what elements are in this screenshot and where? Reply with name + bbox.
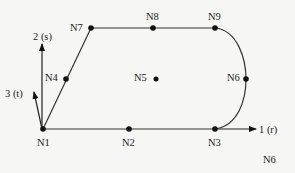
axis-1-label: 1 (r): [259, 124, 278, 136]
label-n8: N8: [146, 11, 159, 22]
label-n4: N4: [45, 72, 59, 83]
node-n7: [88, 25, 94, 31]
node-n6: [243, 76, 249, 82]
element-diagram: 1 (r) 2 (s) 3 (t) N1 N2 N3 N4 N5 N6 N7 N…: [0, 0, 295, 173]
label-n3: N3: [208, 137, 221, 148]
label-n5: N5: [134, 72, 147, 83]
label-n7: N7: [70, 22, 83, 33]
node-n3: [212, 126, 218, 132]
node-n9: [212, 25, 218, 31]
node-n8: [150, 25, 156, 31]
node-n2: [126, 126, 132, 132]
node-labels: N1 N2 N3 N4 N5 N6 N7 N8 N9 N6: [37, 11, 276, 165]
coordinate-axes: 1 (r) 2 (s) 3 (t): [5, 31, 278, 136]
label-n6: N6: [227, 72, 240, 83]
axis-3-arrow: [34, 92, 42, 129]
axis-2-label: 2 (s): [33, 31, 52, 43]
node-n1: [40, 126, 46, 132]
label-n1: N1: [37, 137, 50, 148]
node-n4: [63, 76, 69, 82]
axis-3-label: 3 (t): [5, 88, 23, 100]
node-n5: [154, 77, 159, 82]
label-extra-n6: N6: [263, 154, 276, 165]
label-n2: N2: [122, 137, 135, 148]
label-n9: N9: [208, 11, 221, 22]
